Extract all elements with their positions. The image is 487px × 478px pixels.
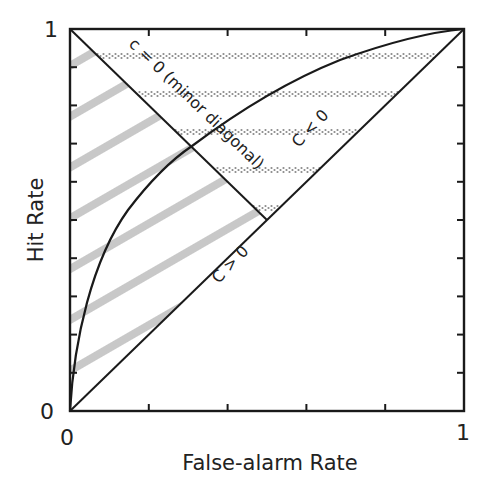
x-tick-label-0: 0 xyxy=(60,425,74,450)
y-tick-label-0: 0 xyxy=(40,399,54,424)
roc-chart: 1 0 0 1 False-alarm Rate Hit Rate c = 0 … xyxy=(0,0,487,478)
x-axis-label: False-alarm Rate xyxy=(182,451,357,475)
x-tick-label-1: 1 xyxy=(456,420,470,445)
y-axis-label: Hit Rate xyxy=(24,178,48,263)
y-tick-label-1: 1 xyxy=(44,17,58,42)
